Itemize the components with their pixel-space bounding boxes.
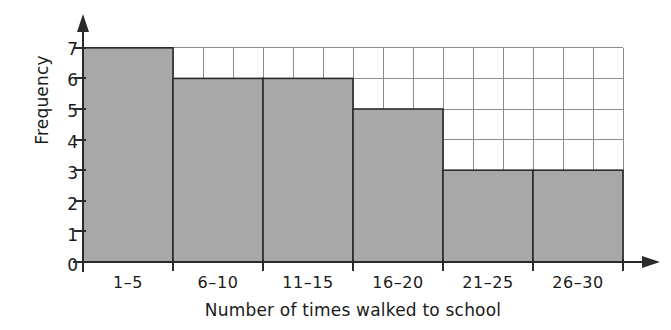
bar-6-10 [173, 78, 263, 262]
histogram-chart: Frequency Number of times walked to scho… [0, 0, 671, 330]
bar-11-15 [263, 78, 353, 262]
plot-area [0, 0, 671, 330]
bar-1-5 [83, 48, 173, 262]
bar-16-20 [353, 109, 443, 262]
bar-series [83, 48, 623, 262]
bar-26-30 [533, 170, 623, 262]
bar-21-25 [443, 170, 533, 262]
y-axis-arrow [77, 14, 89, 32]
x-axis-arrow [642, 256, 660, 268]
